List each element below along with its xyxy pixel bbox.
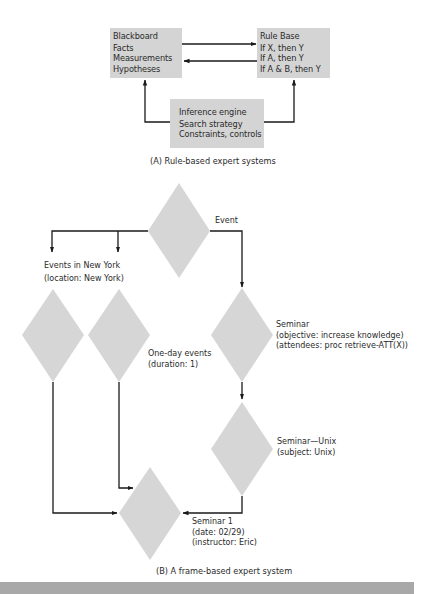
label-line: (subject: Unix) (277, 448, 336, 459)
frame-diamond-seminar-1 (119, 467, 181, 560)
arrow-engine-to-blackboard (145, 80, 170, 122)
page-bottom-band (0, 582, 414, 594)
label-seminar: Seminar (objective: increase knowledge) … (276, 320, 408, 352)
label-line: (attendees: proc retrieve-ATT(X)) (276, 341, 408, 352)
arrow-event-to-newyork (52, 231, 148, 252)
label-line: (objective: increase knowledge) (276, 331, 408, 342)
label-event: Event (215, 216, 238, 227)
label-events-new-york: Events in New York (location: New York) (44, 259, 124, 285)
label-line: One-day events (148, 349, 211, 360)
frame-diamond-seminar-unix (211, 402, 273, 496)
frame-diamond-one-day-events (88, 289, 150, 382)
label-seminar-unix: Seminar—Unix (subject: Unix) (277, 437, 336, 458)
label-line: Seminar (276, 320, 408, 331)
label-line: Events in New York (44, 259, 124, 272)
label-line: Seminar—Unix (277, 437, 336, 448)
arrow-event-to-seminar (210, 231, 242, 287)
label-line: (instructor: Eric) (192, 538, 257, 549)
label-line: Seminar 1 (192, 517, 257, 528)
label-line: (location: New York) (44, 272, 124, 285)
diagram-canvas (0, 0, 431, 594)
frame-diamond-events-new-york (22, 289, 84, 382)
caption-b: (B) A frame-based expert system (156, 566, 292, 576)
label-line: (date: 02/29) (192, 528, 257, 539)
label-line: (duration: 1) (148, 360, 211, 371)
frame-diamond-event (148, 183, 210, 278)
label-line: Event (215, 216, 238, 227)
arrow-oneday-to-seminar1 (119, 382, 133, 488)
label-one-day-events: One-day events (duration: 1) (148, 349, 211, 370)
arrow-engine-to-rulebase (264, 80, 294, 122)
frame-diamond-seminar (211, 288, 273, 382)
label-seminar-1: Seminar 1 (date: 02/29) (instructor: Eri… (192, 517, 257, 549)
arrow-newyork-to-seminar1 (53, 382, 117, 513)
arrow-unix-to-seminar1 (183, 496, 242, 513)
